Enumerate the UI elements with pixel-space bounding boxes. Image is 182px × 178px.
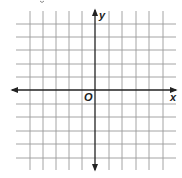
x-axis-label: x xyxy=(169,91,177,103)
grid-horizontal-lines xyxy=(16,24,176,158)
coordinate-plane: x y O xyxy=(0,0,182,178)
origin-label: O xyxy=(84,91,93,103)
clipped-text-fragment xyxy=(40,1,44,3)
y-axis-label: y xyxy=(98,9,106,21)
